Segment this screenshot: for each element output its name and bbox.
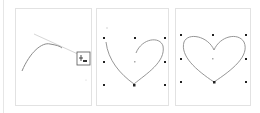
diagram-canvas [0, 0, 260, 113]
anchor-point [103, 37, 105, 39]
anchor-point [180, 34, 182, 36]
anchor-point [164, 61, 166, 63]
pen-cursor-box [77, 52, 90, 65]
anchor-point [245, 58, 247, 60]
step-3-drawing [180, 34, 247, 84]
anchor-point [213, 81, 216, 84]
anchor-point [164, 84, 166, 86]
anchor-point [134, 37, 136, 39]
anchor-point [212, 34, 214, 36]
anchor-point [180, 58, 182, 60]
anchor-grid-3 [180, 34, 247, 84]
anchor-point [245, 34, 247, 36]
step-1-drawing [22, 34, 90, 81]
anchor-point [103, 61, 105, 63]
curve-segment [22, 44, 62, 71]
anchor-point [245, 81, 247, 83]
anchor-point [133, 84, 136, 87]
anchor-point [103, 84, 105, 86]
tangent-handle [34, 34, 80, 55]
guide-point [85, 79, 86, 80]
full-heart-curve [183, 36, 245, 82]
anchor-point [212, 58, 214, 60]
anchor-point [180, 81, 182, 83]
handle-endpoint [106, 27, 108, 29]
step-2-drawing [103, 27, 166, 86]
anchor-point [164, 37, 166, 39]
anchor-point [134, 61, 136, 63]
